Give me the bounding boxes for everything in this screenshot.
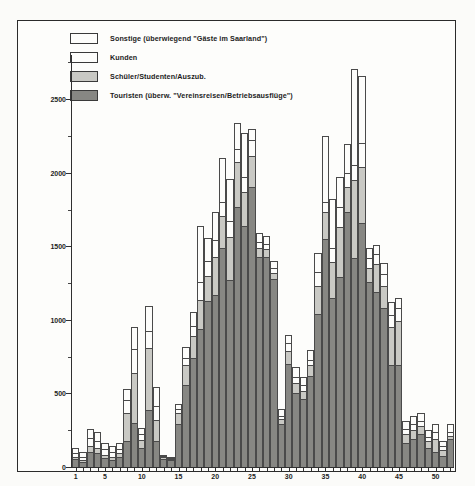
x-tick-mark — [105, 468, 106, 472]
bar-week-2[interactable] — [79, 55, 86, 467]
y-tick-mark — [66, 320, 71, 321]
bar-week-18[interactable] — [197, 55, 204, 467]
bar-week-41[interactable] — [366, 55, 373, 467]
y-tick-minor — [68, 62, 71, 63]
y-tick-mark — [66, 173, 71, 174]
bar-week-9[interactable] — [131, 55, 138, 467]
bar-segment — [388, 365, 395, 467]
bar-week-22[interactable] — [226, 55, 233, 467]
bar-week-4[interactable] — [94, 55, 101, 467]
bar-segment — [248, 129, 255, 141]
bar-week-45[interactable] — [395, 55, 402, 467]
bar-week-38[interactable] — [344, 55, 351, 467]
bar-week-50[interactable] — [432, 55, 439, 467]
bar-segment — [175, 424, 182, 467]
bar-segment — [123, 389, 130, 400]
bar-week-15[interactable] — [175, 55, 182, 467]
bar-segment — [292, 367, 299, 377]
bar-segment — [234, 123, 241, 149]
bar-week-23[interactable] — [234, 55, 241, 467]
bar-week-43[interactable] — [380, 55, 387, 467]
x-tick-label: 1 — [74, 473, 78, 480]
x-tick-mark — [384, 468, 385, 471]
bar-week-44[interactable] — [388, 55, 395, 467]
bar-week-49[interactable] — [425, 55, 432, 467]
bar-segment — [380, 308, 387, 467]
bar-week-3[interactable] — [87, 55, 94, 467]
bar-week-11[interactable] — [145, 55, 152, 467]
bar-week-42[interactable] — [373, 55, 380, 467]
bar-week-16[interactable] — [182, 55, 189, 467]
bar-segment — [402, 443, 409, 467]
bar-week-27[interactable] — [263, 55, 270, 467]
bar-segment — [432, 452, 439, 467]
x-tick-mark — [252, 468, 253, 472]
bar-week-31[interactable] — [292, 55, 299, 467]
x-tick-mark — [164, 468, 165, 471]
bar-week-48[interactable] — [417, 55, 424, 467]
bar-week-24[interactable] — [241, 55, 248, 467]
bar-segment — [256, 233, 263, 242]
bar-week-32[interactable] — [300, 55, 307, 467]
bar-week-21[interactable] — [219, 55, 226, 467]
bar-week-36[interactable] — [329, 55, 336, 467]
bar-week-17[interactable] — [190, 55, 197, 467]
bar-week-34[interactable] — [314, 55, 321, 467]
x-tick-mark — [347, 468, 348, 471]
bar-segment — [138, 448, 145, 467]
bar-week-52[interactable] — [447, 55, 454, 467]
x-tick-label: 40 — [358, 473, 366, 480]
bar-segment — [123, 413, 130, 441]
x-tick-mark — [127, 468, 128, 471]
bar-segment — [256, 257, 263, 467]
legend-swatch-sonstige-icon — [70, 33, 98, 44]
bar-segment — [395, 321, 402, 365]
bar-week-5[interactable] — [101, 55, 108, 467]
bar-week-29[interactable] — [278, 55, 285, 467]
bar-segment — [226, 221, 233, 237]
bar-week-12[interactable] — [153, 55, 160, 467]
bar-segment — [336, 177, 343, 206]
bar-week-14[interactable] — [167, 55, 174, 467]
bar-week-28[interactable] — [270, 55, 277, 467]
bar-segment — [256, 248, 263, 257]
bar-segment — [72, 459, 79, 467]
bar-week-47[interactable] — [410, 55, 417, 467]
bar-week-13[interactable] — [160, 55, 167, 467]
bar-week-37[interactable] — [336, 55, 343, 467]
bar-week-35[interactable] — [322, 55, 329, 467]
bar-week-19[interactable] — [204, 55, 211, 467]
y-tick-minor — [68, 136, 71, 137]
bar-week-6[interactable] — [109, 55, 116, 467]
bar-segment — [447, 439, 454, 467]
bar-week-10[interactable] — [138, 55, 145, 467]
bar-week-46[interactable] — [402, 55, 409, 467]
bar-week-25[interactable] — [248, 55, 255, 467]
bar-week-33[interactable] — [307, 55, 314, 467]
bar-segment — [329, 199, 336, 248]
bar-week-20[interactable] — [212, 55, 219, 467]
bar-week-40[interactable] — [358, 55, 365, 467]
bar-week-39[interactable] — [351, 55, 358, 467]
bar-week-30[interactable] — [285, 55, 292, 467]
bar-segment — [131, 327, 138, 348]
x-tick-mark — [428, 468, 429, 471]
bar-week-51[interactable] — [439, 55, 446, 467]
y-tick-label: 0 — [62, 464, 66, 471]
bar-week-26[interactable] — [256, 55, 263, 467]
bar-segment — [190, 358, 197, 467]
bar-week-1[interactable] — [72, 55, 79, 467]
bar-segment — [402, 434, 409, 443]
bar-week-7[interactable] — [116, 55, 123, 467]
bar-week-8[interactable] — [123, 55, 130, 467]
y-tick-label: 1500 — [50, 243, 66, 250]
x-tick-label: 5 — [103, 473, 107, 480]
bar-segment — [248, 156, 255, 188]
y-tick-mark — [66, 467, 71, 468]
bar-segment — [212, 257, 219, 295]
bar-segment — [373, 264, 380, 292]
bar-segment — [234, 207, 241, 467]
x-tick-mark — [259, 468, 260, 471]
bar-segment — [322, 212, 329, 238]
x-tick-mark — [406, 468, 407, 471]
